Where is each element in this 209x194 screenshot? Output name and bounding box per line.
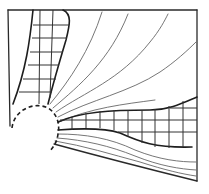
field-line bbox=[56, 14, 168, 112]
frame-left-edge bbox=[8, 10, 10, 126]
field-line bbox=[53, 14, 128, 108]
field-line bbox=[50, 12, 102, 104]
left-band-left-edge bbox=[13, 10, 33, 104]
field-line bbox=[57, 138, 196, 170]
frame-bottom-slanted-edge bbox=[54, 144, 197, 181]
field-line bbox=[58, 134, 196, 162]
source-circle-dashed bbox=[12, 106, 59, 151]
frame bbox=[8, 10, 197, 181]
diagram-canvas bbox=[0, 0, 209, 194]
field-lines bbox=[50, 12, 196, 176]
